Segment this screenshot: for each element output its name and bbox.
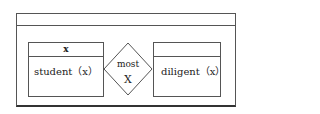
diamond-label-quantifier: most xyxy=(104,60,152,69)
diamond-label-variable: X xyxy=(104,74,152,85)
right-box-divider xyxy=(153,56,221,57)
right-box-body: diligent（x） xyxy=(161,67,225,77)
